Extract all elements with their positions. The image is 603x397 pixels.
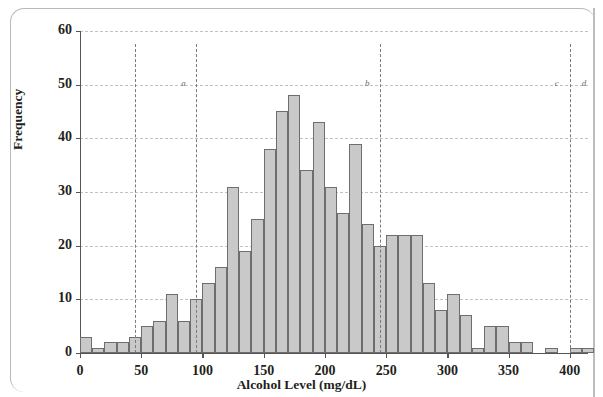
histogram-bar	[239, 251, 251, 353]
x-tick-mark	[386, 353, 387, 358]
x-tick-mark	[447, 353, 448, 358]
histogram-bar	[349, 144, 361, 353]
histogram-bar	[264, 149, 276, 353]
histogram-bar	[215, 267, 227, 353]
histogram-bar	[435, 310, 447, 353]
histogram-bar	[313, 122, 325, 353]
y-tick-mark	[76, 85, 80, 86]
histogram-bar	[141, 326, 153, 353]
histogram-bar	[300, 170, 312, 353]
histogram-bar	[153, 321, 165, 353]
y-axis-line	[80, 31, 81, 353]
histogram-bar	[496, 326, 508, 353]
histogram-bar	[386, 235, 398, 353]
y-tick-label: 30	[32, 183, 72, 199]
histogram-bar	[398, 235, 410, 353]
histogram-bar	[251, 219, 263, 353]
x-tick-mark	[141, 353, 142, 358]
reference-line-c	[570, 44, 571, 353]
histogram-bar	[178, 321, 190, 353]
histogram-bar	[288, 95, 300, 353]
x-axis-title: Alcohol Level (mg/dL)	[0, 377, 603, 393]
histogram-bar	[337, 213, 349, 353]
histogram-bar	[484, 326, 496, 353]
x-tick-mark	[80, 353, 81, 358]
histogram-bar	[80, 337, 92, 353]
histogram-bar	[411, 235, 423, 353]
reference-label-a: a	[181, 78, 186, 88]
y-tick-label: 10	[32, 290, 72, 306]
reference-line-a	[196, 44, 197, 353]
histogram-bar	[447, 294, 459, 353]
histogram-bar	[423, 283, 435, 353]
histogram-bar	[570, 348, 582, 353]
reference-line	[135, 44, 136, 353]
y-tick-mark	[76, 299, 80, 300]
y-axis-title: Frequency	[10, 89, 26, 150]
reference-line-b	[380, 44, 381, 353]
x-tick-mark	[264, 353, 265, 358]
histogram-bar	[472, 348, 484, 353]
histogram-bar	[521, 342, 533, 353]
figure-page: 0102030405060050100150200250300350400abc…	[0, 0, 603, 397]
reference-label-d: d	[582, 78, 587, 88]
histogram-bar	[104, 342, 116, 353]
y-gridline	[80, 85, 588, 86]
y-tick-mark	[76, 138, 80, 139]
histogram-plot-area: 0102030405060050100150200250300350400abc…	[0, 0, 603, 397]
y-gridline	[80, 138, 588, 139]
histogram-bar	[92, 348, 104, 353]
x-tick-mark	[570, 353, 571, 358]
histogram-bar	[325, 187, 337, 353]
y-tick-label: 0	[32, 344, 72, 360]
y-tick-mark	[76, 192, 80, 193]
x-tick-mark	[325, 353, 326, 358]
y-tick-label: 40	[32, 129, 72, 145]
y-gridline	[80, 353, 588, 354]
histogram-bar	[117, 342, 129, 353]
y-tick-mark	[76, 31, 80, 32]
histogram-bar	[509, 342, 521, 353]
x-tick-mark	[509, 353, 510, 358]
histogram-bar	[227, 187, 239, 353]
y-tick-mark	[76, 246, 80, 247]
histogram-bar	[202, 283, 214, 353]
histogram-bar	[362, 224, 374, 353]
y-tick-label: 50	[32, 76, 72, 92]
reference-label-c: c	[555, 78, 559, 88]
histogram-bar	[166, 294, 178, 353]
y-gridline	[80, 31, 588, 32]
histogram-bar	[545, 348, 557, 353]
histogram-bar	[276, 111, 288, 353]
histogram-bar	[582, 348, 594, 353]
y-tick-label: 20	[32, 237, 72, 253]
x-tick-mark	[202, 353, 203, 358]
histogram-bar	[460, 315, 472, 353]
reference-label-b: b	[365, 78, 370, 88]
y-tick-label: 60	[32, 22, 72, 38]
